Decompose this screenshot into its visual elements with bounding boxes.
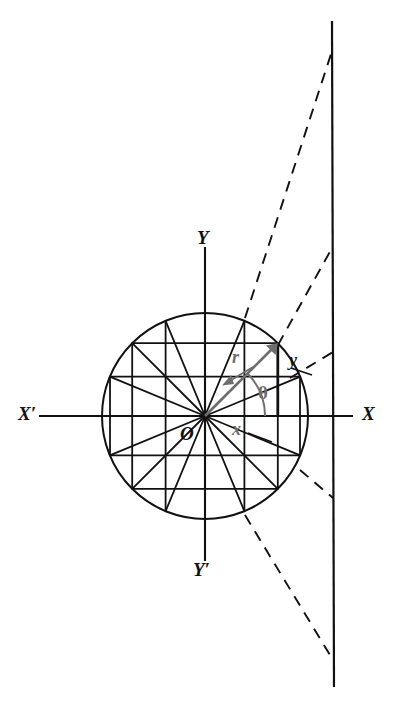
diagram-svg: [0, 0, 401, 705]
label-origin: O: [180, 424, 194, 443]
vertical-reference-line-group: [332, 22, 334, 686]
projection-dashed-lower: [300, 470, 333, 498]
projection-dashed-lower-long: [245, 515, 333, 660]
vertical-reference-line: [332, 22, 334, 686]
projection-dashed-r-endpoint: [278, 248, 332, 345]
radius-vector-group: [205, 343, 278, 416]
label-x-axis-negative: X′: [18, 404, 36, 423]
spoke-225: [132, 416, 205, 489]
spoke-135: [132, 343, 205, 416]
label-ordinate-y: y: [289, 351, 297, 369]
label-abscissa-x: x: [232, 420, 241, 438]
spoke-315: [205, 416, 278, 489]
leader-lines-group: [248, 368, 312, 442]
label-y-axis-positive: Y: [197, 228, 209, 247]
label-x-axis-positive: X: [362, 404, 375, 423]
figure-canvas: X′ X Y Y′ O r θ x y: [0, 0, 401, 705]
label-y-axis-negative: Y′: [193, 560, 210, 579]
leader-line-x: [248, 433, 272, 442]
projection-dashed-upper-long: [245, 48, 333, 318]
label-radius-r: r: [232, 348, 239, 366]
label-angle-theta: θ: [258, 383, 268, 402]
